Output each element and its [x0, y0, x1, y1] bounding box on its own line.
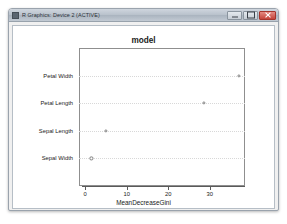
x-axis-tick — [127, 186, 128, 190]
r-graphics-icon — [12, 12, 19, 19]
x-axis-tick-label: 0 — [84, 191, 87, 197]
x-axis-line — [82, 186, 245, 187]
plot-panel — [79, 48, 245, 186]
y-axis-tick-label: Sepal Length — [39, 128, 73, 134]
x-axis-tick-label: 10 — [123, 191, 129, 197]
gridline — [79, 158, 245, 159]
desktop-background: R Graphics: Device 2 (ACTIVE) model Sepa… — [0, 0, 287, 224]
gridline — [79, 76, 245, 77]
x-axis-label: MeanDecreaseGini — [13, 199, 274, 206]
r-graphics-window: R Graphics: Device 2 (ACTIVE) model Sepa… — [8, 8, 279, 211]
minimize-button[interactable] — [227, 11, 242, 20]
plot-title: model — [13, 36, 274, 45]
x-axis-tick-label: 30 — [206, 191, 212, 197]
window-titlebar[interactable]: R Graphics: Device 2 (ACTIVE) — [9, 9, 278, 22]
y-axis-tick-label: Petal Length — [40, 100, 73, 106]
x-axis-tick — [168, 186, 169, 190]
x-axis-tick — [210, 186, 211, 190]
plot-canvas: model Sepal WidthSepal LengthPetal Lengt… — [12, 25, 275, 209]
gridline — [79, 103, 245, 104]
x-axis-tick — [85, 186, 86, 190]
window-title: R Graphics: Device 2 (ACTIVE) — [22, 12, 227, 18]
window-controls — [227, 11, 276, 20]
y-axis-tick-label: Sepal Width — [42, 155, 73, 161]
maximize-button[interactable] — [243, 11, 258, 20]
close-button[interactable] — [259, 11, 276, 20]
x-axis-tick-label: 20 — [165, 191, 171, 197]
y-axis-tick-label: Petal Width — [43, 73, 73, 79]
